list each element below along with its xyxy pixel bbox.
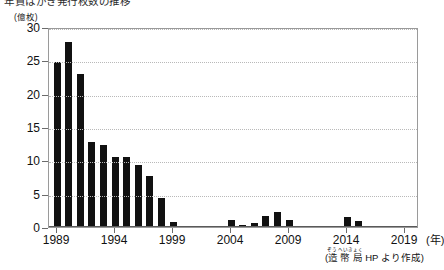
bar [112, 157, 119, 227]
bar-series [49, 29, 417, 227]
y-axis-tick-mark [42, 61, 48, 62]
source-publisher-furigana: ぞうへいきょく [327, 247, 363, 252]
bar [65, 42, 72, 227]
bar [146, 176, 153, 227]
y-axis-tick-mark [42, 195, 48, 196]
plot-area [48, 28, 418, 228]
page-title: 年賀はがき発行枚数の推移 [4, 0, 130, 7]
y-axis-tick-mark [42, 161, 48, 162]
y-axis-tick-label: 10 [0, 155, 40, 167]
x-axis-unit-label: (年) [426, 234, 444, 247]
grid-line [49, 162, 417, 163]
y-axis-tick-label: 20 [0, 89, 40, 101]
source-note: (造幣局ぞうへいきょく HP より作成) [325, 247, 424, 263]
y-axis-tick-mark [42, 28, 48, 29]
bar [274, 212, 281, 227]
grid-line [49, 196, 417, 197]
y-axis-tick-mark [42, 128, 48, 129]
source-publisher-base: 造幣局 [327, 252, 363, 263]
y-axis-tick-mark [42, 95, 48, 96]
x-axis-tick-label: 2009 [258, 234, 318, 247]
y-axis-tick-label: 30 [0, 22, 40, 34]
x-axis-tick-label: 2004 [200, 234, 260, 247]
grid-line [49, 29, 417, 30]
bar [158, 198, 165, 227]
x-axis-tick-label: 1994 [84, 234, 144, 247]
y-axis-tick-label: 5 [0, 189, 40, 201]
grid-line [49, 129, 417, 130]
chart-title-cropped: 年賀はがき発行枚数の推移 [4, 0, 304, 7]
x-axis-baseline [49, 226, 417, 227]
grid-line [49, 96, 417, 97]
y-axis-tick-mark [42, 228, 48, 229]
bar [54, 62, 61, 227]
source-suffix: HP より作成) [363, 252, 424, 263]
bar [88, 142, 95, 227]
y-axis-tick-label: 0 [0, 222, 40, 234]
x-axis-tick-label: 2014 [316, 234, 376, 247]
y-axis-tick-label: 25 [0, 55, 40, 67]
y-axis-tick-label: 15 [0, 122, 40, 134]
grid-line [49, 62, 417, 63]
bar [100, 145, 107, 227]
bar [77, 74, 84, 227]
bar [123, 157, 130, 227]
x-axis-tick-label: 1989 [26, 234, 86, 247]
x-axis-tick-label: 2019 [374, 234, 434, 247]
source-publisher: 造幣局ぞうへいきょく [328, 252, 362, 263]
x-axis-tick-label: 1999 [142, 234, 202, 247]
